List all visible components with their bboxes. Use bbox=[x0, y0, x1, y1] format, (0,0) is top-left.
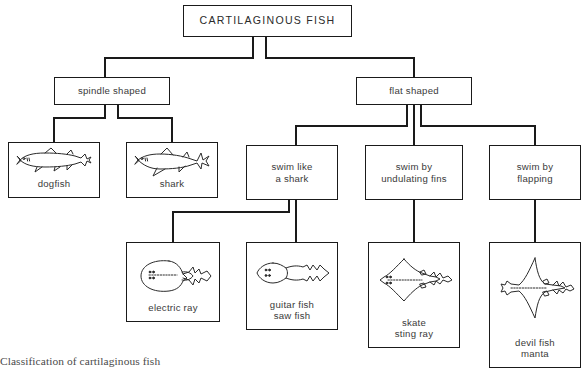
node-label: shark bbox=[160, 178, 185, 190]
node-guitar-fish[interactable]: guitar fish saw fish bbox=[246, 242, 338, 330]
guitar-fish-silhouette-icon bbox=[247, 255, 337, 291]
node-shark[interactable]: shark bbox=[126, 142, 218, 198]
dogfish-silhouette-icon bbox=[9, 147, 99, 173]
electric-ray-silhouette-icon bbox=[127, 253, 219, 299]
node-skate-sting-ray[interactable]: skate sting ray bbox=[368, 242, 460, 348]
node-dogfish[interactable]: dogfish bbox=[8, 142, 100, 198]
node-label: swim by flapping bbox=[517, 161, 553, 184]
shark-silhouette-icon bbox=[127, 147, 217, 177]
node-label: electric ray bbox=[148, 302, 197, 314]
node-label: skate sting ray bbox=[395, 317, 434, 340]
diagram-canvas: CARTILAGINOUS FISH spindle shaped flat s… bbox=[0, 0, 586, 372]
node-label: CARTILAGINOUS FISH bbox=[200, 15, 336, 27]
devil-fish-silhouette-icon bbox=[490, 255, 580, 321]
node-swim-by-undulating-fins[interactable]: swim by undulating fins bbox=[365, 145, 463, 200]
node-label: spindle shaped bbox=[78, 85, 146, 97]
figure-caption: Classification of cartilaginous fish bbox=[0, 355, 300, 367]
node-label: devil fish manta bbox=[515, 337, 555, 360]
node-label: dogfish bbox=[38, 178, 71, 190]
skate-silhouette-icon bbox=[369, 255, 459, 305]
node-swim-like-a-shark[interactable]: swim like a shark bbox=[246, 145, 338, 200]
node-flat-shaped[interactable]: flat shaped bbox=[356, 77, 472, 105]
node-label: swim like a shark bbox=[271, 161, 312, 184]
node-spindle-shaped[interactable]: spindle shaped bbox=[54, 77, 170, 105]
node-electric-ray[interactable]: electric ray bbox=[126, 242, 220, 322]
node-label: swim by undulating fins bbox=[381, 161, 447, 184]
node-devil-fish-manta[interactable]: devil fish manta bbox=[489, 242, 581, 368]
node-swim-by-flapping[interactable]: swim by flapping bbox=[489, 145, 581, 200]
node-cartilaginous-fish[interactable]: CARTILAGINOUS FISH bbox=[183, 5, 352, 37]
node-label: guitar fish saw fish bbox=[270, 299, 314, 322]
node-label: flat shaped bbox=[389, 85, 439, 97]
